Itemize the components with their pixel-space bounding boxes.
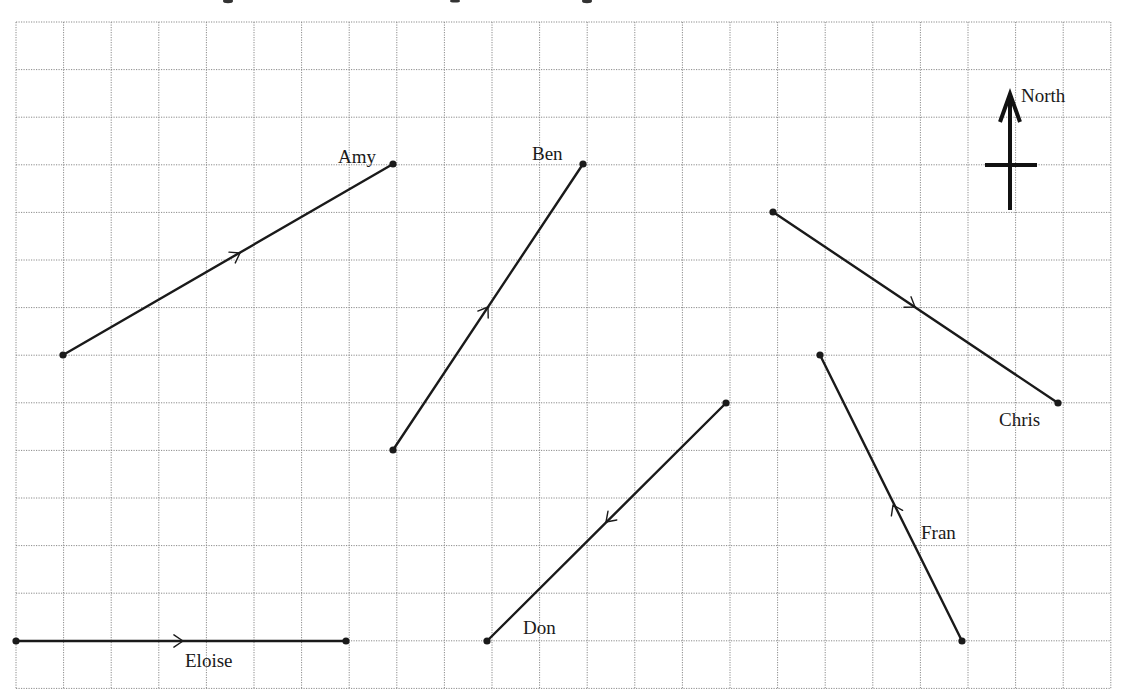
start-point	[59, 351, 66, 358]
end-point	[389, 160, 396, 167]
end-point	[1054, 399, 1061, 406]
north-compass: North	[985, 85, 1066, 210]
start-point	[958, 637, 965, 644]
journey-amy: Amy	[59, 146, 396, 359]
journey-label: Ben	[532, 143, 563, 164]
start-point	[389, 446, 396, 453]
journey-don: Don	[483, 399, 729, 644]
end-point	[816, 351, 823, 358]
journey-ben: Ben	[389, 143, 586, 454]
start-point	[12, 637, 19, 644]
start-point	[769, 208, 776, 215]
grid-paper	[16, 22, 1111, 688]
journey-label: Eloise	[185, 650, 233, 671]
journey-label: Chris	[999, 409, 1040, 430]
journey-grid-diagram: AmyBenChrisDonEloiseFran North	[0, 0, 1121, 697]
north-label: North	[1021, 85, 1066, 106]
journey-lines: AmyBenChrisDonEloiseFran	[12, 143, 1061, 671]
journey-label: Don	[523, 617, 556, 638]
journey-chris: Chris	[769, 208, 1061, 430]
journey-label: Fran	[921, 522, 956, 543]
start-point	[722, 399, 729, 406]
end-point	[579, 160, 586, 167]
end-point	[483, 637, 490, 644]
cropped-top-text-fragment	[223, 0, 592, 3]
cropped-glyph	[450, 0, 460, 3]
journey-label: Amy	[338, 146, 377, 167]
cropped-glyph	[582, 0, 592, 3]
journey-eloise: Eloise	[12, 635, 349, 671]
end-point	[342, 637, 349, 644]
cropped-glyph	[223, 0, 233, 3]
